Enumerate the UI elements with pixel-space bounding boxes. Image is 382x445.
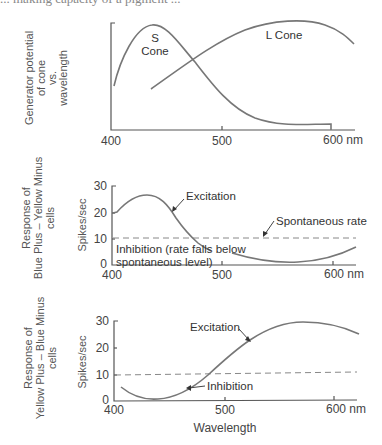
x-tick-label: 400 xyxy=(101,134,121,148)
response-curve xyxy=(232,247,356,262)
y-tick-label: 30 xyxy=(96,314,110,328)
y-tick-label: 20 xyxy=(96,341,110,355)
s-cone-label: S xyxy=(151,32,159,44)
figure-canvas: Generator potential of cone vs. waveleng… xyxy=(0,0,382,445)
y-axis-label: Spikes/sec xyxy=(76,335,88,389)
chart-yellow-plus-blue-minus: Response of Yellow Plus – Blue Minus cel… xyxy=(22,296,366,435)
x-axis-label: Wavelength xyxy=(194,421,257,435)
y-tick-label: 10 xyxy=(94,232,108,246)
s-cone-label: Cone xyxy=(141,45,169,57)
side-label-line: Response of xyxy=(20,186,32,249)
excitation-label: Excitation xyxy=(186,190,236,202)
x-tick-label: 400 xyxy=(104,403,124,417)
l-cone-label: L Cone xyxy=(266,29,303,41)
side-label-line: Generator potential xyxy=(23,31,35,125)
x-tick-label: 500 xyxy=(212,134,232,148)
spontaneous-arrow xyxy=(265,221,274,234)
x-tick-label: 600 nm xyxy=(323,133,363,147)
chart-blue-plus-yellow-minus: Response of Blue Plus – Yellow Minus cel… xyxy=(20,156,367,282)
x-tick-label: 500 xyxy=(212,268,232,282)
y-tick-label: 20 xyxy=(94,206,108,220)
side-label-line: cells xyxy=(44,207,56,230)
y-tick-label: 10 xyxy=(96,368,110,382)
y-tick-label: 30 xyxy=(94,179,108,193)
inhibition-label: Inhibition (rate falls below xyxy=(116,243,246,255)
side-label-line: Blue Plus – Yellow Minus xyxy=(32,156,44,279)
side-label-line: cells xyxy=(46,347,58,370)
side-label-line: wavelength xyxy=(57,50,69,107)
spontaneous-rate-line xyxy=(115,372,357,375)
chart-cone-potential: Generator potential of cone vs. waveleng… xyxy=(23,21,363,148)
excitation-label: Excitation xyxy=(190,321,240,333)
inhibition-label: spontaneous level) xyxy=(116,256,213,268)
arrowhead xyxy=(263,231,268,237)
axes xyxy=(111,23,355,130)
l-cone-curve xyxy=(151,21,354,89)
spontaneous-label: Spontaneous rate xyxy=(276,215,367,227)
x-tick-label: 400 xyxy=(102,268,122,282)
x-tick-label: 600 nm xyxy=(326,402,366,416)
side-label-line: Response of xyxy=(22,326,34,389)
inhibition-label: Inhibition xyxy=(207,380,253,392)
x-tick-label: 600 nm xyxy=(324,267,364,281)
x-tick-label: 500 xyxy=(215,403,235,417)
side-label-line: Yellow Plus – Blue Minus xyxy=(34,296,46,419)
y-axis-label: Spikes/sec xyxy=(76,198,88,252)
